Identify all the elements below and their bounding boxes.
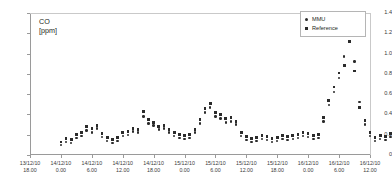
x-tick-mark	[123, 155, 124, 158]
x-tick-mark	[92, 155, 93, 158]
data-point-reference	[188, 133, 191, 136]
data-point-mmu	[199, 122, 201, 124]
data-point-reference	[364, 119, 367, 122]
data-point-mmu	[389, 136, 391, 138]
x-tick-mark	[30, 155, 31, 158]
data-point-reference	[111, 138, 114, 141]
x-tick-mark	[185, 155, 186, 158]
data-point-mmu	[111, 142, 113, 144]
y-axis-title: CO [ppm]	[39, 17, 57, 35]
data-point-mmu	[127, 134, 129, 136]
data-point-reference	[163, 124, 166, 127]
data-point-mmu	[75, 137, 77, 139]
data-point-mmu	[214, 115, 216, 117]
data-point-reference	[101, 132, 104, 135]
data-point-reference	[137, 128, 140, 131]
y-tick-mark	[27, 33, 30, 34]
data-point-mmu	[322, 120, 324, 122]
data-point-reference	[369, 131, 372, 134]
legend-marker-square-icon	[305, 27, 308, 30]
data-point-reference	[121, 131, 124, 134]
data-point-reference	[142, 110, 145, 113]
data-point-reference	[343, 64, 346, 67]
y-tick-label: 0.4	[366, 111, 392, 117]
data-point-mmu	[286, 139, 288, 141]
data-point-reference	[91, 127, 94, 130]
data-point-reference	[266, 135, 269, 138]
data-point-mmu	[312, 138, 314, 140]
x-tick-mark	[154, 155, 155, 158]
y-tick-mark	[27, 13, 30, 14]
data-point-reference	[322, 116, 325, 119]
data-point-reference	[65, 137, 68, 140]
data-point-reference	[338, 72, 341, 75]
data-point-mmu	[147, 122, 149, 124]
data-point-reference	[80, 131, 83, 134]
data-point-mmu	[163, 127, 165, 129]
data-point-mmu	[142, 115, 144, 117]
y-tick-label: 0.8	[366, 71, 392, 77]
data-point-reference	[147, 118, 150, 121]
data-point-reference	[116, 136, 119, 139]
data-point-mmu	[178, 137, 180, 139]
data-point-mmu	[96, 127, 98, 129]
chart-legend: MMU Reference	[300, 11, 366, 37]
legend-item-mmu: MMU	[305, 15, 361, 24]
legend-label-reference: Reference	[312, 26, 338, 32]
legend-label-mmu: MMU	[312, 17, 325, 23]
data-point-reference	[281, 134, 284, 137]
data-point-reference	[127, 130, 130, 133]
x-tick-mark	[215, 155, 216, 158]
data-point-reference	[384, 135, 387, 138]
data-point-mmu	[250, 141, 252, 143]
data-point-mmu	[235, 123, 237, 125]
data-point-reference	[209, 102, 212, 105]
y-tick-mark	[27, 114, 30, 115]
y-tick-mark	[27, 54, 30, 55]
data-point-reference	[312, 134, 315, 137]
data-point-reference	[132, 127, 135, 130]
y-tick-label: 0.6	[366, 91, 392, 97]
data-point-reference	[261, 134, 264, 137]
data-point-reference	[85, 125, 88, 128]
legend-marker-circle-icon	[305, 18, 308, 21]
x-tick-date: 16/12/10	[348, 160, 392, 167]
data-point-mmu	[91, 131, 93, 133]
y-tick-label: 1.0	[366, 51, 392, 57]
data-point-reference	[271, 137, 274, 140]
y-tick-label: 1.2	[366, 30, 392, 36]
data-point-reference	[178, 133, 181, 136]
data-point-mmu	[85, 129, 87, 131]
x-tick-mark	[246, 155, 247, 158]
data-point-reference	[333, 86, 336, 89]
x-tick-label: 16/12/1012.00	[348, 160, 392, 174]
data-point-mmu	[122, 135, 124, 137]
data-point-reference	[96, 124, 99, 127]
data-point-mmu	[194, 131, 196, 133]
data-point-reference	[235, 120, 238, 123]
data-point-reference	[348, 40, 351, 43]
data-point-mmu	[230, 120, 232, 122]
data-point-reference	[214, 111, 217, 114]
x-tick-mark	[339, 155, 340, 158]
data-point-reference	[157, 125, 160, 128]
data-point-mmu	[219, 117, 221, 119]
data-point-mmu	[379, 138, 381, 140]
data-point-mmu	[158, 128, 160, 130]
y-tick-label: 1.4	[366, 10, 392, 16]
data-point-reference	[60, 141, 63, 144]
data-point-mmu	[255, 140, 257, 142]
data-point-mmu	[369, 135, 371, 137]
data-point-reference	[224, 117, 227, 120]
y-tick-mark	[27, 94, 30, 95]
data-point-reference	[245, 135, 248, 138]
data-point-reference	[374, 136, 377, 139]
data-point-mmu	[132, 130, 134, 132]
data-point-reference	[70, 138, 73, 141]
data-point-mmu	[261, 138, 263, 140]
data-point-reference	[302, 131, 305, 134]
data-point-reference	[152, 121, 155, 124]
y-tick-mark	[27, 74, 30, 75]
data-point-reference	[255, 136, 258, 139]
data-point-reference	[297, 133, 300, 136]
